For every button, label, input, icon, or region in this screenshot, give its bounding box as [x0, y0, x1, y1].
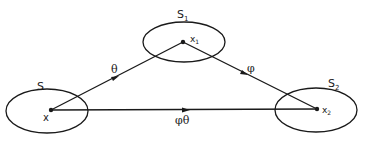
arrow-phi-line	[183, 42, 317, 109]
arrow-phitheta-label: φθ	[175, 114, 190, 127]
arrow-theta-label: θ	[111, 63, 118, 76]
arrow-theta-line	[51, 42, 183, 110]
arrow-phi-label: φ	[247, 62, 255, 75]
point-x1	[181, 40, 185, 44]
point-x	[49, 108, 53, 112]
arrow-theta-head	[111, 76, 119, 81]
point-x1-label: x1	[190, 34, 199, 45]
arrow-phitheta-head	[182, 108, 190, 113]
set-s-ellipse	[6, 89, 88, 133]
point-x2	[315, 107, 319, 111]
point-x2-label: x2	[322, 105, 331, 116]
point-x-label: x	[43, 112, 49, 123]
set-s2-label: S2	[328, 77, 339, 92]
set-s1-label: S1	[177, 8, 188, 23]
commutative-diagram: S S1 S2 x x1 x2 θ φ φθ	[0, 0, 367, 142]
set-s-label: S	[37, 80, 44, 93]
